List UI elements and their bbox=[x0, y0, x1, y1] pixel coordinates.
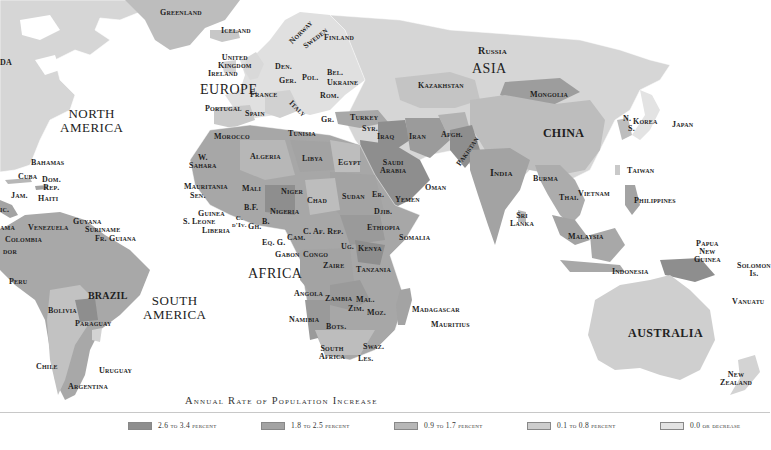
label-sen: Sen. bbox=[190, 192, 206, 200]
label-s: S. bbox=[628, 125, 635, 133]
label-oman: Oman bbox=[425, 184, 446, 192]
label-car: C. Af. Rep. bbox=[303, 228, 343, 236]
label-haiti: Haiti bbox=[38, 195, 58, 203]
label-burma: Burma bbox=[533, 175, 558, 183]
label-niger: Niger bbox=[281, 188, 303, 196]
label-saudi-arabia: Saudi Arabia bbox=[380, 159, 406, 175]
label-mal: Mal. bbox=[356, 296, 375, 304]
legend-title: Annual Rate of Population Increase bbox=[185, 395, 378, 406]
label-iran: Iran bbox=[409, 133, 426, 141]
label-peru: Peru bbox=[9, 278, 27, 286]
label-s-leone: S. Leone bbox=[183, 218, 215, 226]
label-mali: Mali bbox=[242, 185, 261, 193]
label-w-sahara: W. Sahara bbox=[189, 154, 217, 170]
label-iceland: Iceland bbox=[221, 27, 251, 35]
label-libya: Libya bbox=[302, 155, 323, 163]
label-solomon-is: Solomon Is. bbox=[737, 262, 771, 278]
label-taiwan: Taiwan bbox=[627, 167, 654, 175]
label-canada-fragment: DA bbox=[0, 59, 12, 67]
label-bahamas: Bahamas bbox=[31, 159, 64, 167]
label-algeria: Algeria bbox=[250, 153, 281, 161]
legend-item-4: 0.1 to 0.8 percent bbox=[527, 421, 616, 430]
label-united-kingdom: United Kingdom bbox=[218, 54, 252, 70]
label-argentina: Argentina bbox=[68, 383, 108, 391]
label-sudan: Sudan bbox=[342, 193, 365, 201]
label-philippines: Philippines bbox=[634, 197, 676, 205]
label-gh: Gh. bbox=[248, 223, 262, 231]
label-ug: Ug. bbox=[341, 243, 354, 251]
label-gr: Gr. bbox=[321, 116, 334, 124]
label-korea: Korea bbox=[633, 118, 658, 126]
label-russia: Russia bbox=[478, 46, 507, 56]
label-swaz: Swaz. bbox=[363, 343, 384, 351]
label-thai: Thai. bbox=[559, 194, 579, 202]
label-iraq: Iraq bbox=[377, 133, 394, 141]
legend-label: 0.9 to 1.7 percent bbox=[424, 421, 483, 430]
legend-item-2: 1.8 to 2.5 percent bbox=[261, 421, 350, 430]
label-suriname: Suriname bbox=[85, 226, 120, 234]
label-vanuatu: Vanuatu bbox=[732, 298, 764, 306]
label-zim: Zim. bbox=[348, 305, 364, 313]
label-turkey: Turkey bbox=[350, 114, 378, 122]
label-yemen: Yemen bbox=[395, 196, 420, 204]
label-greenland: Greenland bbox=[160, 9, 202, 17]
label-north-america: NORTH AMERICA bbox=[60, 107, 123, 134]
label-cuba: Cuba bbox=[18, 173, 37, 181]
label-liberia: Liberia bbox=[202, 227, 230, 235]
label-venezuela: Venezuela bbox=[28, 224, 69, 232]
label-france: France bbox=[250, 91, 277, 99]
label-papua-new-guinea: Papua New Guinea bbox=[694, 240, 721, 264]
label-spain: Spain bbox=[245, 110, 265, 118]
label-er: Er. bbox=[372, 191, 384, 199]
label-indonesia: Indonesia bbox=[612, 268, 649, 276]
label-namibia: Namibia bbox=[289, 316, 319, 324]
label-ireland: Ireland bbox=[208, 70, 238, 78]
label-tunisia: Tunisia bbox=[288, 130, 316, 138]
label-vietnam: Vietnam bbox=[578, 190, 610, 198]
label-somalia: Somalia bbox=[399, 234, 430, 242]
label-japan: Japan bbox=[672, 121, 693, 129]
label-jam: Jam. bbox=[11, 192, 28, 200]
label-b: B. bbox=[262, 218, 270, 226]
label-ukraine: Ukraine bbox=[327, 79, 358, 87]
label-bel: Bel. bbox=[327, 69, 343, 77]
label-australia: AUSTRALIA bbox=[628, 327, 703, 340]
label-madagascar: Madagascar bbox=[412, 306, 460, 314]
label-paraguay: Paraguay bbox=[75, 320, 112, 328]
label-chad: Chad bbox=[307, 197, 327, 205]
label-les: Les. bbox=[358, 355, 373, 363]
label-mauritius: Mauritius bbox=[431, 321, 470, 329]
legend-label: 2.6 to 3.4 percent bbox=[158, 421, 217, 430]
label-south-africa: South Africa bbox=[319, 345, 345, 361]
legend-label: 1.8 to 2.5 percent bbox=[291, 421, 350, 430]
legend-swatch bbox=[394, 422, 418, 430]
label-rom: Rom. bbox=[320, 92, 339, 100]
label-den: Den. bbox=[275, 63, 292, 71]
label-africa: AFRICA bbox=[248, 267, 302, 282]
label-south-america: SOUTH AMERICA bbox=[143, 294, 206, 321]
label-chile: Chile bbox=[36, 363, 58, 371]
label-nigeria: Nigeria bbox=[270, 208, 299, 216]
label-morocco: Morocco bbox=[214, 133, 250, 141]
label-uruguay: Uruguay bbox=[99, 367, 132, 375]
label-fr-guiana: Fr. Guiana bbox=[95, 235, 136, 243]
label-egypt: Egypt bbox=[338, 159, 361, 167]
legend-item-3: 0.9 to 1.7 percent bbox=[394, 421, 483, 430]
label-bf: B.F. bbox=[244, 204, 258, 212]
label-zaire: Zaire bbox=[323, 262, 344, 270]
label-n: N. bbox=[623, 115, 631, 123]
label-colombia: Colombia bbox=[5, 236, 42, 244]
label-ethiopia: Ethiopia bbox=[367, 224, 400, 232]
legend-swatch bbox=[527, 422, 551, 430]
label-finland: Finland bbox=[324, 34, 354, 42]
legend-label: 0.1 to 0.8 percent bbox=[557, 421, 616, 430]
label-ger: Ger. bbox=[279, 77, 296, 85]
legend-swatch bbox=[128, 422, 152, 430]
label-moz: Moz. bbox=[367, 309, 386, 317]
label-dom-rep: Dom. Rep. bbox=[42, 176, 61, 192]
label-brazil: BRAZIL bbox=[88, 291, 128, 301]
label-kazakhstan: Kazakhstan bbox=[418, 82, 464, 90]
label-mongolia: Mongolia bbox=[530, 91, 568, 99]
legend-item-1: 2.6 to 3.4 percent bbox=[128, 421, 217, 430]
label-syr: Syr. bbox=[362, 125, 378, 133]
